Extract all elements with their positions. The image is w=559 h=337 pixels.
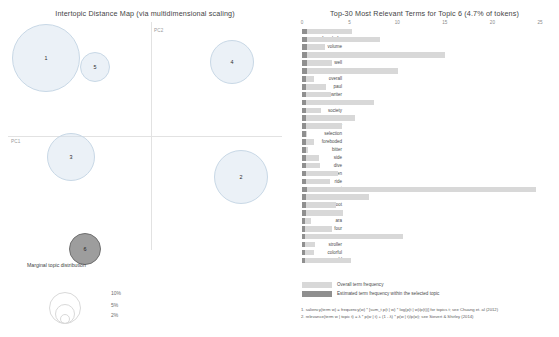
- term-bar-row[interactable]: foot: [290, 202, 559, 210]
- topic-number-label: 6: [70, 246, 100, 252]
- overall-frequency-bar: [302, 258, 351, 264]
- term-label[interactable]: society: [328, 108, 342, 113]
- overall-frequency-bar: [302, 92, 331, 98]
- term-bar-row[interactable]: red: [290, 28, 559, 36]
- term-bar-row[interactable]: overall: [290, 75, 559, 83]
- x-axis-tick-20: 20: [490, 20, 495, 25]
- term-bar-row[interactable]: society: [290, 107, 559, 115]
- term-label[interactable]: paul: [333, 84, 342, 89]
- axis-label-pc2: PC2: [154, 28, 164, 33]
- overall-frequency-bar: [302, 226, 332, 232]
- term-bar-row[interactable]: side: [290, 154, 559, 162]
- topic-frequency-bar: [302, 44, 307, 50]
- overall-frequency-bar: [302, 115, 355, 121]
- overall-frequency-bar: [302, 194, 369, 200]
- overall-frequency-bar: [302, 210, 343, 216]
- term-bar-row[interactable]: not: [290, 186, 559, 194]
- bar-chart-legend: Overall term frequency Estimated term fr…: [302, 281, 552, 299]
- term-bar-row[interactable]: yellow: [290, 194, 559, 202]
- term-bar-row[interactable]: family: [290, 209, 559, 217]
- term-label[interactable]: foreboded: [322, 139, 342, 144]
- topic-frequency-swatch: [302, 291, 332, 297]
- topic-frequency-bar: [302, 37, 307, 43]
- overall-frequency-bar: [302, 187, 536, 193]
- term-bar-row[interactable]: writer: [290, 91, 559, 99]
- x-axis-tick-15: 15: [442, 20, 447, 25]
- overall-frequency-bar: [302, 171, 338, 177]
- term-label[interactable]: ride: [334, 179, 342, 184]
- term-bar-row[interactable]: series: [290, 67, 559, 75]
- topic-circle-6[interactable]: 6: [69, 233, 101, 265]
- overall-frequency-bar: [302, 123, 342, 129]
- topic-number-label: 3: [48, 154, 94, 160]
- topic-circle-4[interactable]: 4: [210, 40, 254, 84]
- term-bar-row[interactable]: blunt: [290, 99, 559, 107]
- pyldavis-visualization: Intertopic Distance Map (via multidimens…: [0, 0, 559, 337]
- axis-label-pc1: PC1: [11, 139, 21, 144]
- term-label[interactable]: volume: [327, 44, 342, 49]
- topic-frequency-bar: [302, 155, 306, 161]
- topic-frequency-bar: [302, 258, 305, 264]
- term-bar-row[interactable]: old: [290, 257, 559, 265]
- term-bar-row[interactable]: golden: [290, 170, 559, 178]
- topic-circle-3[interactable]: 3: [47, 133, 95, 181]
- term-label[interactable]: overall: [329, 76, 342, 81]
- topic-frequency-bar: [302, 218, 305, 224]
- overall-frequency-bar: [302, 202, 336, 208]
- term-label[interactable]: writer: [331, 92, 342, 97]
- term-label[interactable]: four: [334, 226, 342, 231]
- overall-frequency-bar: [302, 52, 445, 58]
- term-label[interactable]: dive: [334, 163, 342, 168]
- term-bar-row[interactable]: volume: [290, 44, 559, 52]
- intertopic-distance-panel: Intertopic Distance Map (via multidimens…: [0, 0, 290, 337]
- topic-circle-5[interactable]: 5: [80, 52, 110, 82]
- term-bar-row[interactable]: four: [290, 225, 559, 233]
- term-bar-row[interactable]: well: [290, 60, 559, 68]
- vertical-axis-line: [151, 22, 152, 250]
- overall-frequency-bar: [302, 100, 374, 106]
- term-bar-row[interactable]: foreboded: [290, 138, 559, 146]
- term-bar-row[interactable]: good: [290, 52, 559, 60]
- topic-frequency-bar: [302, 131, 306, 137]
- topic-circle-2[interactable]: 2: [214, 150, 268, 204]
- term-bar-row[interactable]: ride: [290, 178, 559, 186]
- marginal-ring-10: [49, 292, 81, 324]
- term-bar-row[interactable]: ara: [290, 217, 559, 225]
- footnote-relevance: 2. relevance(term w | topic t) = λ * p(w…: [301, 313, 556, 320]
- footnotes-block: 1. saliency(term w) = frequency(w) * [su…: [301, 306, 556, 320]
- intertopic-scatter-area[interactable]: PC2 PC1 154326: [8, 22, 282, 250]
- marginal-percent-label: 2%: [111, 312, 118, 318]
- horizontal-axis-line: [8, 136, 282, 137]
- topic-frequency-bar: [302, 108, 306, 114]
- term-bar-row[interactable]: paul: [290, 83, 559, 91]
- term-label[interactable]: selection: [324, 131, 342, 136]
- term-bar-row[interactable]: colorful: [290, 249, 559, 257]
- topic-frequency-bar: [302, 171, 306, 177]
- term-label[interactable]: side: [334, 155, 342, 160]
- term-bar-row[interactable]: stroller: [290, 241, 559, 249]
- topic-circle-1[interactable]: 1: [12, 24, 80, 92]
- legend-row-overall: Overall term frequency: [302, 281, 552, 290]
- term-bar-row[interactable]: keeper: [290, 123, 559, 131]
- term-label[interactable]: bitter: [332, 147, 342, 152]
- topic-frequency-bar: [302, 52, 307, 58]
- term-label[interactable]: ara: [335, 218, 342, 223]
- term-bar-row[interactable]: end: [290, 115, 559, 123]
- topic-frequency-bar: [302, 179, 306, 185]
- term-bar-row[interactable]: selection: [290, 131, 559, 139]
- topic-number-label: 4: [211, 59, 253, 65]
- term-label[interactable]: colorful: [327, 250, 342, 255]
- marginal-percent-label: 5%: [111, 302, 118, 308]
- term-bar-row[interactable]: french_fry: [290, 36, 559, 44]
- term-bar-row[interactable]: bitter: [290, 146, 559, 154]
- term-bar-row[interactable]: collection: [290, 233, 559, 241]
- term-label[interactable]: stroller: [328, 242, 342, 247]
- term-label[interactable]: well: [334, 60, 342, 65]
- overall-frequency-bar: [302, 29, 352, 35]
- intertopic-map-title: Intertopic Distance Map (via multidimens…: [0, 9, 290, 18]
- topic-frequency-bar: [302, 194, 306, 200]
- term-bar-row[interactable]: dive: [290, 162, 559, 170]
- marginal-percent-label: 10%: [111, 290, 121, 296]
- overall-frequency-bar: [302, 179, 330, 185]
- topic-frequency-bar: [302, 29, 307, 35]
